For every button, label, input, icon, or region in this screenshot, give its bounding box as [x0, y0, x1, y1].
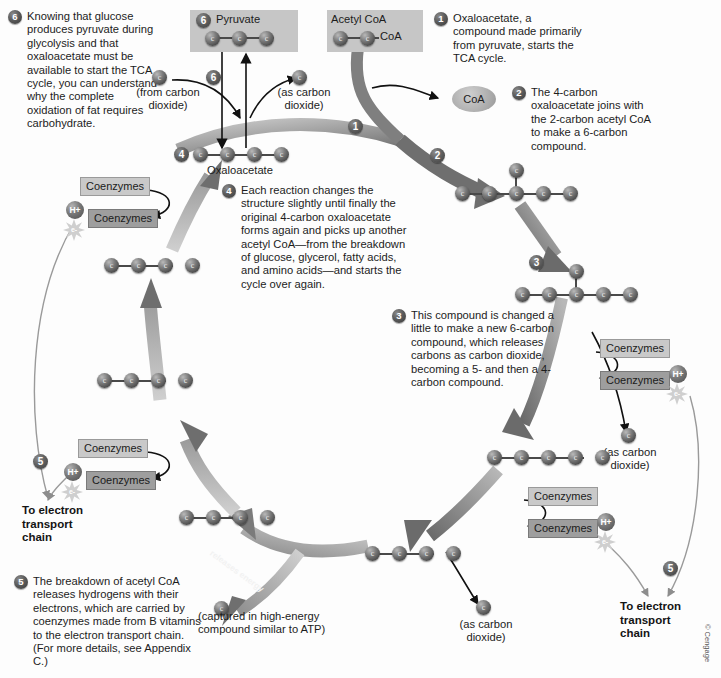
- step-1-text: Oxaloacetate, a compound made primarily …: [434, 12, 584, 66]
- from-carbon-dioxide-label: (from carbon dioxide): [120, 86, 216, 113]
- to-electron-transport-chain-left: To electron transport chain: [22, 504, 132, 545]
- carbon-sphere: [487, 450, 502, 465]
- step-2-text-block: 2 The 4-carbon oxaloacetate joins with t…: [512, 86, 654, 153]
- carbon-sphere: [206, 510, 221, 525]
- step-badge-6-inline: 6: [206, 70, 221, 85]
- step-badge-6: 6: [8, 10, 22, 24]
- carbon-sphere: [274, 147, 289, 162]
- carbon-sphere: [124, 373, 139, 388]
- carbon-sphere: [220, 147, 235, 162]
- coenzymes-box-lower-left: Coenzymes: [78, 439, 148, 458]
- coenzymes-box-right-upper-charged: Coenzymes: [600, 371, 670, 390]
- carbon-sphere: [419, 546, 434, 561]
- carbon-sphere: [623, 287, 638, 302]
- step-badge-1-inline: 1: [348, 119, 363, 134]
- carbon-sphere-as-co2: [621, 428, 636, 443]
- h-plus-icon: H+: [597, 513, 615, 531]
- carbon-sphere-as-co2: [292, 70, 307, 85]
- carbon-sphere-from-co2: [152, 70, 167, 85]
- carbon-sphere: [515, 287, 530, 302]
- carbon-sphere: [178, 373, 193, 388]
- as-carbon-dioxide-label-bottom: (as carbon dioxide): [438, 618, 534, 645]
- coenzymes-box-right-lower: Coenzymes: [528, 487, 598, 506]
- carbon-sphere: [233, 510, 248, 525]
- captured-atp-label: (captured in high-energy compound simila…: [198, 610, 388, 637]
- oxaloacetate-label: Oxaloacetate: [170, 164, 310, 177]
- carbon-sphere: [446, 546, 461, 561]
- coenzymes-box-upper-left: Coenzymes: [80, 177, 150, 196]
- carbon-sphere: [392, 546, 407, 561]
- carbon-sphere: [360, 31, 375, 46]
- to-electron-transport-chain-right: To electron transport chain: [620, 600, 716, 641]
- step-badge-5: 5: [14, 575, 28, 589]
- coa-molecule: CoA: [452, 86, 496, 112]
- carbon-sphere: [151, 373, 166, 388]
- step-4-text: Each reaction changes the structure slig…: [222, 184, 408, 291]
- step-badge-5-left: 5: [33, 454, 48, 469]
- coenzymes-box-upper-left-charged: Coenzymes: [88, 209, 158, 228]
- carbon-sphere: [563, 186, 578, 201]
- carbon-sphere: [569, 264, 584, 279]
- step-4-text-block: 4 Each reaction changes the structure sl…: [222, 184, 408, 291]
- step-badge-5-right: 5: [663, 561, 678, 576]
- step-badge-3: 3: [392, 309, 406, 323]
- carbon-sphere: [568, 450, 583, 465]
- releases-energy-label: releases energy: [208, 548, 266, 594]
- h-plus-icon: H+: [66, 201, 84, 219]
- carbon-sphere: [97, 373, 112, 388]
- oxaloacetate-step-badge: 4: [174, 147, 189, 162]
- step-1-text-block: 1 Oxaloacetate, a compound made primaril…: [434, 12, 584, 66]
- step-2-text: The 4-carbon oxaloacetate joins with the…: [512, 86, 654, 153]
- step-3-text-block: 3 This compound is changed a little to m…: [392, 309, 574, 389]
- carbon-sphere: [596, 287, 611, 302]
- carbon-sphere: [569, 287, 584, 302]
- h-plus-icon: H+: [64, 463, 82, 481]
- carbon-sphere: [514, 450, 529, 465]
- step-badge-2-inline: 2: [430, 148, 445, 163]
- h-plus-icon: H+: [669, 365, 687, 383]
- carbon-sphere: [482, 186, 497, 201]
- carbon-sphere: [158, 258, 173, 273]
- carbon-sphere: [541, 450, 556, 465]
- electron-starburst-icon: e-: [63, 219, 85, 241]
- electron-starburst-icon: e-: [61, 481, 83, 503]
- electron-label: e-: [71, 226, 77, 233]
- carbon-sphere: [185, 258, 200, 273]
- electron-starburst-icon: e-: [594, 531, 616, 553]
- step-badge-1: 1: [434, 12, 448, 26]
- electron-label: e-: [69, 488, 75, 495]
- coenzymes-box-right-lower-charged: Coenzymes: [528, 519, 598, 538]
- electron-label: e-: [602, 538, 608, 545]
- pyruvate-label: Pyruvate: [216, 13, 296, 26]
- carbon-sphere: [595, 450, 610, 465]
- carbon-sphere: [260, 510, 275, 525]
- electron-label: e-: [674, 390, 680, 397]
- carbon-sphere: [333, 31, 348, 46]
- carbon-sphere: [232, 31, 247, 46]
- acetyl-coa-label: Acetyl CoA: [331, 13, 419, 26]
- coenzymes-box-lower-left-charged: Coenzymes: [86, 471, 156, 490]
- copyright-label: © Cengage: [703, 624, 712, 662]
- step-badge-4: 4: [222, 184, 236, 198]
- carbon-sphere: [131, 258, 146, 273]
- carbon-sphere: [193, 147, 208, 162]
- carbon-sphere-as-co2: [476, 600, 491, 615]
- carbon-sphere: [509, 163, 524, 178]
- electron-starburst-icon: e-: [666, 383, 688, 405]
- carbon-sphere: [179, 510, 194, 525]
- carbon-sphere: [259, 31, 274, 46]
- carbon-sphere: [365, 546, 380, 561]
- carbon-sphere: [104, 258, 119, 273]
- carbon-sphere: [247, 147, 262, 162]
- acetyl-coa-tail-label: CoA: [380, 30, 414, 43]
- step-badge-3-inline: 3: [529, 255, 544, 270]
- tca-cycle-figure: 6 Knowing that glucose produces pyruvate…: [0, 0, 721, 678]
- coenzymes-box-right-upper: Coenzymes: [600, 339, 670, 358]
- pyruvate-step-badge: 6: [196, 13, 211, 28]
- carbon-sphere: [536, 186, 551, 201]
- carbon-sphere: [205, 31, 220, 46]
- step-5-text: The breakdown of acetyl CoA releases hyd…: [14, 575, 202, 669]
- step-badge-2: 2: [512, 86, 526, 100]
- carbon-sphere: [542, 287, 557, 302]
- carbon-sphere: [509, 186, 524, 201]
